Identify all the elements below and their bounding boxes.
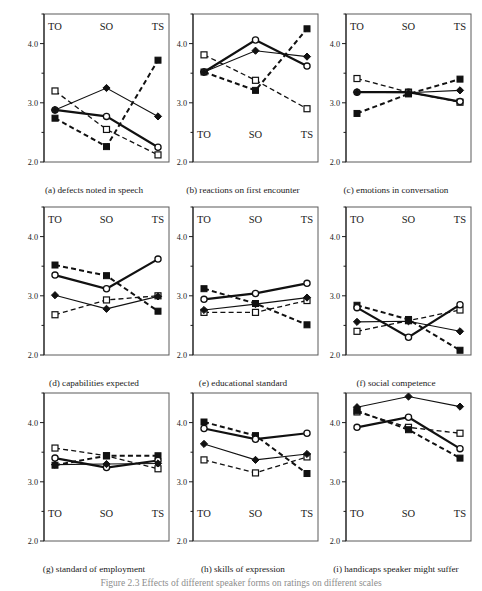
y-tick-label: 2.0: [177, 351, 187, 360]
condition-label-so: SO: [100, 508, 114, 519]
data-point-open-square: [201, 457, 207, 463]
y-tick-label: 3.0: [28, 478, 38, 487]
data-point-filled-square: [457, 76, 463, 82]
data-point-open-square: [201, 52, 207, 58]
condition-label-to: TO: [197, 508, 211, 519]
y-tick-label: 3.0: [330, 292, 340, 301]
y-tick-label: 2.0: [177, 158, 187, 167]
condition-label-to: TO: [197, 129, 211, 140]
series-line: [204, 422, 307, 474]
data-point-filled-square: [104, 273, 110, 279]
condition-label-so: SO: [402, 508, 416, 519]
data-point-open-circle: [155, 144, 161, 150]
data-point-filled-square: [104, 144, 110, 150]
data-point-open-square: [253, 470, 259, 476]
data-point-open-square: [354, 76, 360, 82]
condition-label-so: SO: [100, 21, 114, 32]
condition-label-to: TO: [48, 508, 62, 519]
data-point-open-circle: [201, 296, 207, 302]
y-tick-label: 3.0: [330, 99, 340, 108]
data-point-filled-square: [104, 453, 110, 459]
panel-chart-a: 2.03.04.0TOSOTS(a) defects noted in spee…: [14, 6, 174, 198]
data-point-open-circle: [103, 113, 109, 119]
series-filled-square-dashed: [52, 57, 161, 149]
y-tick-label: 2.0: [28, 351, 38, 360]
data-point-open-square: [155, 152, 161, 158]
panel-title-c: (c) emotions in conversation: [344, 185, 449, 195]
y-tick-label: 3.0: [28, 99, 38, 108]
condition-label-to: TO: [48, 21, 62, 32]
data-point-open-square: [104, 126, 110, 132]
data-point-open-circle: [457, 302, 463, 308]
condition-label-to: TO: [350, 214, 364, 225]
data-point-filled-square: [457, 347, 463, 353]
panel-d: 2.03.04.0TOSOTS(d) capabilities expected: [14, 199, 174, 391]
y-tick-label: 4.0: [177, 233, 187, 242]
data-point-open-square: [104, 297, 110, 303]
panel-title-h: (h) skills of expression: [201, 564, 285, 574]
condition-label-ts: TS: [301, 508, 313, 519]
data-point-filled-square: [304, 471, 310, 477]
series-open-circle-solid: [201, 37, 310, 75]
panel-chart-b: 2.03.04.0TOSOTS(b) reactions on first en…: [163, 6, 323, 198]
condition-label-so: SO: [402, 21, 416, 32]
data-point-filled-diamond: [103, 305, 110, 312]
series-open-square-dashed: [201, 52, 310, 112]
data-point-filled-square: [354, 110, 360, 116]
data-point-open-circle: [52, 455, 58, 461]
panel-title-i: (i) handicaps speaker might suffer: [333, 564, 458, 574]
panel-b: 2.03.04.0TOSOTS(b) reactions on first en…: [163, 6, 323, 198]
panel-f: 2.03.04.0TOSOTS(f) social competence: [316, 199, 476, 391]
panel-grid: 2.03.04.0TOSOTS(a) defects noted in spee…: [0, 0, 482, 575]
y-tick-label: 4.0: [177, 40, 187, 49]
series-filled-diamond-solid: [353, 318, 463, 335]
data-point-open-square: [354, 328, 360, 334]
y-tick-label: 3.0: [177, 99, 187, 108]
panel-i: 2.03.04.0TOSOTS(i) handicaps speaker mig…: [316, 385, 476, 577]
series-filled-diamond-solid: [200, 47, 310, 76]
data-point-filled-square: [406, 427, 412, 433]
data-point-open-square: [457, 430, 463, 436]
y-tick-label: 3.0: [330, 478, 340, 487]
panel-g: 2.03.04.0TOSOTS(g) standard of employmen…: [14, 385, 174, 577]
data-point-open-circle: [304, 430, 310, 436]
y-tick-label: 2.0: [330, 537, 340, 546]
condition-label-ts: TS: [454, 21, 466, 32]
data-point-filled-square: [457, 455, 463, 461]
data-point-filled-square: [201, 286, 207, 292]
data-point-filled-diamond: [51, 292, 58, 299]
panel-chart-d: 2.03.04.0TOSOTS(d) capabilities expected: [14, 199, 174, 391]
data-point-filled-diamond: [200, 440, 207, 447]
data-point-open-circle: [252, 436, 258, 442]
data-point-open-circle: [304, 280, 310, 286]
y-tick-label: 4.0: [330, 40, 340, 49]
data-point-filled-square: [155, 308, 161, 314]
panel-h: 2.03.04.0TOSOTS(h) skills of expression: [163, 385, 323, 577]
data-point-open-square: [304, 106, 310, 112]
data-point-open-circle: [354, 424, 360, 430]
plot-frame: [193, 207, 318, 355]
y-tick-label: 2.0: [177, 537, 187, 546]
series-filled-square-dashed: [354, 302, 463, 353]
panel-e: 2.03.04.0TOSOTS(e) educational standard: [163, 199, 323, 391]
data-point-filled-diamond: [456, 328, 463, 335]
data-point-filled-diamond: [405, 393, 412, 400]
data-point-open-circle: [103, 286, 109, 292]
condition-label-ts: TS: [301, 214, 313, 225]
plot-frame: [346, 14, 471, 162]
data-point-filled-diamond: [456, 87, 463, 94]
data-point-filled-diamond: [303, 53, 310, 60]
data-point-open-square: [52, 445, 58, 451]
data-point-filled-square: [52, 262, 58, 268]
condition-label-so: SO: [402, 214, 416, 225]
y-tick-label: 3.0: [177, 292, 187, 301]
panel-chart-h: 2.03.04.0TOSOTS(h) skills of expression: [163, 385, 323, 577]
condition-label-so: SO: [249, 129, 263, 140]
series-filled-diamond-solid: [353, 393, 463, 411]
y-tick-label: 4.0: [28, 419, 38, 428]
plot-frame: [44, 207, 169, 355]
data-point-filled-diamond: [154, 113, 161, 120]
data-point-open-circle: [304, 63, 310, 69]
panel-a: 2.03.04.0TOSOTS(a) defects noted in spee…: [14, 6, 174, 198]
data-point-filled-diamond: [252, 47, 259, 54]
